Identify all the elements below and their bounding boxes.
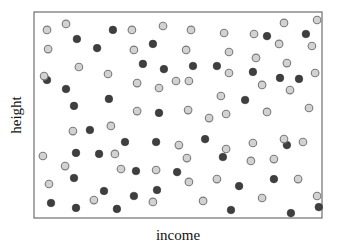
data-point-light [133, 79, 141, 87]
data-point-dark [189, 62, 197, 70]
data-point-light [258, 81, 266, 89]
data-point-light [283, 59, 291, 67]
data-point-dark [153, 186, 161, 194]
data-point-light [252, 54, 260, 62]
data-point-light [149, 198, 157, 206]
scatter-chart: income height [0, 0, 341, 250]
data-point-light [222, 110, 230, 118]
data-point-light [311, 69, 319, 77]
data-point-light [44, 45, 52, 53]
data-point-light [183, 154, 191, 162]
data-point-dark [201, 135, 209, 143]
data-point-light [159, 22, 167, 30]
data-point-dark [100, 187, 108, 195]
data-point-dark [70, 174, 78, 182]
data-point-light [133, 107, 141, 115]
data-point-light [225, 48, 233, 56]
data-point-light [62, 20, 70, 28]
data-point-dark [263, 32, 271, 40]
data-point-dark [227, 206, 235, 214]
data-point-light [270, 155, 278, 163]
data-point-dark [270, 175, 278, 183]
data-point-light [299, 138, 307, 146]
data-point-dark [95, 150, 103, 158]
data-point-dark [152, 138, 160, 146]
data-point-light [152, 166, 160, 174]
data-point-light [107, 122, 115, 130]
data-point-light [313, 16, 321, 24]
data-point-light [130, 46, 138, 54]
data-point-light [247, 157, 255, 165]
data-point-dark [241, 96, 249, 104]
data-point-dark [155, 109, 163, 117]
series-light-points [39, 16, 321, 206]
data-point-dark [105, 95, 113, 103]
data-point-dark [130, 192, 138, 200]
data-point-light [280, 19, 288, 27]
data-point-light [187, 26, 195, 34]
data-point-light [249, 139, 257, 147]
data-point-dark [149, 40, 157, 48]
data-point-dark [173, 168, 181, 176]
data-point-dark [93, 44, 101, 52]
data-point-dark [132, 167, 140, 175]
data-point-light [61, 162, 69, 170]
data-point-light [294, 175, 302, 183]
data-point-dark [113, 205, 121, 213]
data-point-dark [219, 153, 227, 161]
data-point-light [217, 92, 225, 100]
data-point-dark [235, 182, 243, 190]
data-point-light [225, 69, 233, 77]
data-point-dark [302, 30, 310, 38]
data-point-dark [72, 204, 80, 212]
data-point-light [111, 150, 119, 158]
data-point-light [185, 77, 193, 85]
data-point-light [213, 175, 221, 183]
data-point-light [104, 70, 112, 78]
data-point-light [286, 86, 294, 94]
data-point-light [184, 106, 192, 114]
data-point-dark [70, 102, 78, 110]
data-point-light [220, 29, 228, 37]
data-point-dark [121, 138, 129, 146]
data-point-dark [72, 149, 80, 157]
data-point-light [43, 26, 51, 34]
series-dark-points [43, 26, 322, 217]
data-point-light [175, 141, 183, 149]
data-point-dark [249, 68, 257, 76]
data-point-light [117, 165, 125, 173]
data-point-light [280, 135, 288, 143]
data-point-dark [47, 199, 55, 207]
data-point-dark [109, 26, 117, 34]
data-point-light [258, 194, 266, 202]
data-point-dark [73, 35, 81, 43]
data-point-dark [315, 203, 323, 211]
data-point-light [155, 84, 163, 92]
data-point-light [128, 26, 136, 34]
data-point-light [199, 197, 207, 205]
data-point-light [263, 108, 271, 116]
data-point-light [90, 196, 98, 204]
data-point-dark [295, 75, 303, 83]
data-point-light [45, 180, 53, 188]
data-point-light [69, 127, 77, 135]
data-point-light [313, 192, 321, 200]
data-point-dark [62, 85, 70, 93]
y-axis-label: height [8, 95, 24, 133]
data-point-light [40, 72, 48, 80]
data-point-light [75, 63, 83, 71]
x-axis-label: income [156, 227, 200, 243]
data-point-light [222, 145, 230, 153]
data-point-dark [160, 65, 168, 73]
data-point-light [39, 152, 47, 160]
data-point-dark [287, 209, 295, 217]
data-point-dark [86, 126, 94, 134]
data-point-light [172, 77, 180, 85]
data-point-dark [276, 74, 284, 82]
data-point-light [308, 42, 316, 50]
data-point-light [250, 30, 258, 38]
data-point-dark [213, 62, 221, 70]
data-point-light [305, 104, 313, 112]
data-point-light [205, 114, 213, 122]
data-point-dark [139, 60, 147, 68]
